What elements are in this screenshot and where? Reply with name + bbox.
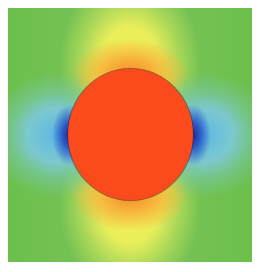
- contour-field: [8, 8, 252, 262]
- circular-inclusion: [68, 69, 193, 200]
